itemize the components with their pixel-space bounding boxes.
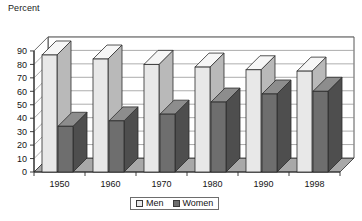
x-axis-label-1970: 1970 bbox=[151, 179, 171, 189]
bar-1990-men bbox=[246, 70, 261, 172]
bar-1970-women bbox=[160, 114, 175, 172]
bar-1998-women-side bbox=[328, 77, 342, 172]
bar-1980-women bbox=[211, 102, 226, 172]
legend-label-women: Women bbox=[183, 199, 214, 208]
bar-1950-men bbox=[42, 55, 57, 172]
bar-1998-women bbox=[313, 91, 328, 172]
x-axis-label-1990: 1990 bbox=[253, 179, 273, 189]
bar-1990-women-side bbox=[277, 80, 291, 172]
bar-1970-men bbox=[144, 64, 159, 172]
y-axis-tick-label: 50 bbox=[17, 100, 27, 110]
chart-legend: Men Women bbox=[130, 197, 219, 210]
y-axis-tick-label: 40 bbox=[17, 113, 27, 123]
y-axis-tick-label: 60 bbox=[17, 87, 27, 97]
y-axis-tick-label: 80 bbox=[17, 60, 27, 70]
bar-1990-women bbox=[262, 94, 277, 172]
bar-1980-men bbox=[195, 67, 210, 172]
y-axis-tick-label: 90 bbox=[17, 46, 27, 56]
x-axis-label-1998: 1998 bbox=[304, 179, 324, 189]
legend-swatch-women-icon bbox=[173, 200, 180, 207]
y-axis-tick-label: 10 bbox=[17, 154, 27, 164]
y-axis-tick-label: 30 bbox=[17, 127, 27, 137]
legend-entry-women: Women bbox=[173, 199, 214, 208]
legend-entry-men: Men bbox=[136, 199, 164, 208]
chart-plot-area: 0102030405060708090195019601970198019901… bbox=[0, 0, 362, 221]
bar-1950-women bbox=[58, 126, 73, 172]
bar-chart: Percent 01020304050607080901950196019701… bbox=[0, 0, 362, 221]
legend-label-men: Men bbox=[146, 199, 164, 208]
bar-1960-men bbox=[93, 59, 108, 172]
bar-1960-women bbox=[109, 121, 124, 172]
bar-1998-men bbox=[297, 71, 312, 172]
y-axis-tick-label: 70 bbox=[17, 73, 27, 83]
x-axis-label-1960: 1960 bbox=[100, 179, 120, 189]
x-axis-label-1950: 1950 bbox=[49, 179, 69, 189]
legend-swatch-men-icon bbox=[136, 200, 143, 207]
y-axis-tick-label: 20 bbox=[17, 140, 27, 150]
x-axis-label-1980: 1980 bbox=[202, 179, 222, 189]
y-axis-tick-label: 0 bbox=[22, 167, 27, 177]
bar-1980-women-side bbox=[226, 88, 240, 172]
